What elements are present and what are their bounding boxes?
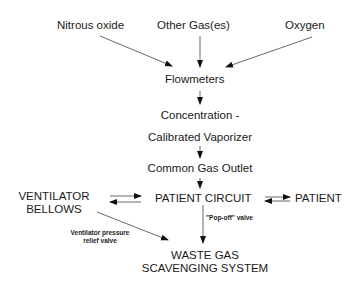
node-oxygen: Oxygen: [285, 19, 325, 32]
node-vaporizer-line2: Calibrated Vaporizer: [140, 131, 260, 144]
node-ventilator-line1: VENTILATOR: [12, 190, 96, 203]
node-ventilator-line2: BELLOWS: [12, 203, 96, 216]
arrow-oxygen-to-flowmeters: [226, 37, 312, 67]
node-flowmeters: Flowmeters: [165, 73, 224, 86]
node-nitrous-oxide: Nitrous oxide: [57, 19, 124, 32]
arrow-nitrous-to-flowmeters: [100, 36, 172, 66]
label-vent-relief-line1: Ventilator pressure: [60, 229, 140, 237]
node-patient: PATIENT: [295, 192, 342, 205]
label-vent-relief-line2: relief valve: [60, 237, 140, 245]
node-patient-circuit: PATIENT CIRCUIT: [155, 192, 251, 205]
node-waste-line2: SCAVENGING SYSTEM: [130, 262, 280, 275]
node-vaporizer-line1: Concentration -: [140, 109, 260, 122]
node-other-gases: Other Gas(es): [157, 19, 230, 32]
label-pop-off-valve: "Pop-off" valve: [206, 214, 253, 222]
node-common-gas-outlet: Common Gas Outlet: [140, 162, 260, 175]
node-waste-line1: WASTE GAS: [130, 249, 280, 262]
